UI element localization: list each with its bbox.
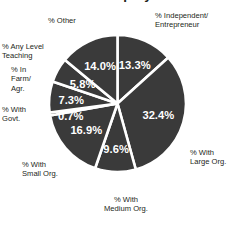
pie-slice-value: 32.4%: [142, 109, 174, 121]
chart-canvas: Alumni Employment 13.3%32.4%9.6%16.9%0.7…: [0, 0, 236, 225]
pie-label-farm-agr: % In Farm/ Agr.: [11, 65, 47, 93]
pie-slice-value: 9.6%: [103, 143, 129, 155]
pie-slice-value: 13.3%: [119, 59, 151, 71]
pie-label-large-org: % With Large Org.: [190, 148, 236, 167]
pie-slice-value: 14.0%: [84, 60, 116, 72]
pie-label-other: % Other: [48, 16, 108, 25]
pie-label-small-org: % With Small Org.: [22, 160, 82, 179]
pie-slice-value: 16.9%: [70, 124, 102, 136]
pie-label-govt: % With Govt.: [2, 105, 52, 124]
pie-slice-value: 0.7%: [58, 110, 84, 122]
pie-label-medium-org: % With Medium Org.: [88, 195, 164, 214]
pie-slice-value: 5.8%: [70, 78, 96, 90]
pie-slice-value: 7.3%: [58, 94, 84, 106]
pie-label-independent: % Independent/ Entrepreneur: [155, 11, 235, 30]
pie-label-any-level-teaching: % Any Level Teaching: [2, 42, 58, 61]
